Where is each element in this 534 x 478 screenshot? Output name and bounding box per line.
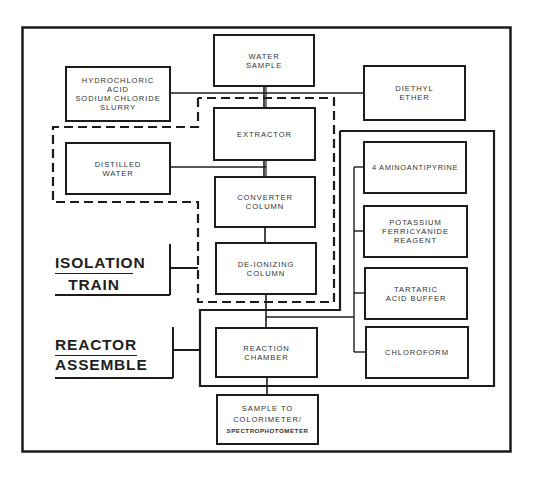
isolation-text: ISOLATION [55, 254, 133, 274]
extractor-label: EXTRACTOR [237, 130, 292, 139]
converter-column-label: CONVERTER COLUMN [237, 193, 293, 211]
aminoantipyrine-box: 4 AMINOANTIPYRINE [363, 141, 467, 194]
water-sample-label: WATER SAMPLE [246, 52, 282, 70]
tartaric-acid-box: TARTARIC ACID BUFFER [364, 267, 468, 320]
aminoantipyrine-label: 4 AMINOANTIPYRINE [372, 163, 458, 172]
extractor-box: EXTRACTOR [213, 107, 316, 161]
tartaric-acid-label: TARTARIC ACID BUFFER [386, 285, 447, 303]
deionizing-column-label: DE-IONIZING COLUMN [238, 260, 295, 278]
potassium-ferricyanide-label: POTASSIUM FERRICYANIDE REAGENT [382, 218, 449, 245]
sample-to-colorimeter-box: SAMPLE TO COLORIMETER/ SPECTROPHOTOMETER [216, 394, 319, 445]
diethyl-ether-label: DIETHYL ETHER [395, 84, 433, 102]
reaction-chamber-box: REACTION CHAMBER [215, 327, 318, 378]
colorimeter-label: COLORIMETER/ [233, 414, 302, 425]
reactor-assemble-label: REACTOR ASSEMBLE [55, 336, 145, 374]
reactor-text: REACTOR [55, 336, 137, 356]
hcl-slurry-label: HYDROCHLORIC ACID SODIUM CHLORIDE SLURRY [75, 76, 160, 112]
hcl-slurry-box: HYDROCHLORIC ACID SODIUM CHLORIDE SLURRY [65, 66, 171, 122]
distilled-water-box: DISTILLED WATER [65, 142, 171, 195]
converter-column-box: CONVERTER COLUMN [214, 176, 316, 228]
potassium-ferricyanide-box: POTASSIUM FERRICYANIDE REAGENT [363, 205, 468, 258]
assemble-text: ASSEMBLE [55, 356, 145, 374]
diethyl-ether-box: DIETHYL ETHER [363, 65, 466, 121]
reaction-chamber-label: REACTION CHAMBER [243, 344, 289, 362]
sample-to-label: SAMPLE TO [242, 403, 293, 414]
water-sample-box: WATER SAMPLE [213, 34, 315, 87]
chloroform-box: CHLOROFORM [365, 326, 469, 379]
deionizing-column-box: DE-IONIZING COLUMN [215, 242, 317, 295]
distilled-water-label: DISTILLED WATER [95, 160, 142, 178]
spectrophotometer-label: SPECTROPHOTOMETER [227, 425, 309, 436]
isolation-train-label: ISOLATION TRAIN [55, 254, 133, 294]
chloroform-label: CHLOROFORM [385, 348, 449, 357]
train-text: TRAIN [55, 274, 133, 294]
